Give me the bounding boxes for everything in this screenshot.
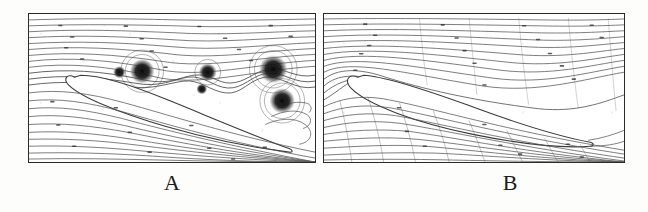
panel-a-streamlines <box>29 14 315 162</box>
separated-flow-panel <box>28 13 316 163</box>
panel-a-caption: A <box>142 172 202 194</box>
attached-flow-panel <box>323 13 625 163</box>
panel-b-streamlines <box>324 14 624 162</box>
airfoil-flow-figure: A B <box>0 0 648 212</box>
panel-b-caption: B <box>480 172 540 194</box>
